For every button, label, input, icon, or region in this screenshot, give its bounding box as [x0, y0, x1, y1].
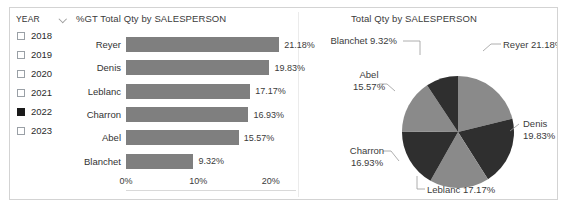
- pie-slice-label-line: Blanchet 9.32%: [330, 35, 397, 46]
- bar-track: 21.18%: [126, 33, 315, 56]
- bar-value-label: 16.93%: [253, 110, 284, 120]
- bar-value-label: 15.57%: [244, 133, 275, 143]
- bar-track: 16.93%: [126, 103, 298, 126]
- pie-slice-label: Blanchet 9.32%: [330, 35, 397, 46]
- pie-label-leader-line: [403, 41, 420, 55]
- bar-fill[interactable]: [126, 60, 269, 75]
- checkbox-checked-icon[interactable]: [17, 108, 25, 116]
- slicer-item-label: 2020: [31, 68, 52, 79]
- slicer-item-2020[interactable]: 2020: [14, 64, 70, 83]
- pie-slice-label-line: Denis: [523, 118, 548, 129]
- pie-chart-svg: Reyer 21.18%Denis19.83%Leblanc 17.17%Cha…: [307, 11, 557, 199]
- pie-slice-label: Charron16.93%: [350, 145, 384, 168]
- bar-category-label: Abel: [74, 132, 126, 143]
- bar-value-label: 17.17%: [255, 86, 286, 96]
- bar-chart-x-axis: 0%10%20%: [126, 174, 296, 198]
- x-axis-tick-label: 10%: [189, 176, 207, 186]
- slicer-item-2021[interactable]: 2021: [14, 83, 70, 102]
- checkbox-icon[interactable]: [17, 32, 25, 40]
- pie-slice-label-line: 15.57%: [353, 81, 386, 92]
- bar-row[interactable]: Abel15.57%: [74, 126, 298, 149]
- bar-chart-plot-area: Reyer21.18%Denis19.83%Leblanc17.17%Charr…: [74, 33, 298, 173]
- slicer-item-label: 2019: [31, 49, 52, 60]
- bar-row[interactable]: Leblanc17.17%: [74, 80, 298, 103]
- pie-slice-label-line: Reyer 21.18%: [503, 39, 557, 50]
- bar-track: 17.17%: [126, 80, 298, 103]
- checkbox-icon[interactable]: [17, 127, 25, 135]
- bar-category-label: Denis: [74, 62, 126, 73]
- bar-category-label: Leblanc: [74, 86, 126, 97]
- slicer-item-2023[interactable]: 2023: [14, 121, 70, 140]
- pie-slice-label-line: 19.83%: [523, 130, 556, 141]
- bar-fill[interactable]: [126, 84, 250, 99]
- bar-chart-visual[interactable]: %GT Total Qty by SALESPERSON Reyer21.18%…: [74, 11, 298, 199]
- bar-fill[interactable]: [126, 154, 193, 169]
- slicer-item-list: 201820192020202120222023: [14, 26, 70, 140]
- slicer-item-2018[interactable]: 2018: [14, 26, 70, 45]
- checkbox-icon[interactable]: [17, 89, 25, 97]
- year-slicer[interactable]: YEAR 201820192020202120222023: [14, 11, 70, 141]
- bar-fill[interactable]: [126, 107, 248, 122]
- bar-track: 9.32%: [126, 150, 298, 173]
- bar-row[interactable]: Reyer21.18%: [74, 33, 298, 56]
- x-axis-tick-label: 0%: [119, 176, 132, 186]
- pie-chart-visual[interactable]: Total Qty by SALESPERSON Reyer 21.18%Den…: [307, 11, 557, 199]
- bar-category-label: Reyer: [74, 39, 126, 50]
- bar-row[interactable]: Blanchet9.32%: [74, 150, 298, 173]
- slicer-item-label: 2021: [31, 87, 52, 98]
- bar-category-label: Blanchet: [74, 156, 126, 167]
- slicer-item-label: 2022: [31, 106, 52, 117]
- pie-slice-label-line: Leblanc 17.17%: [427, 184, 496, 195]
- pie-label-leader-line: [483, 44, 501, 51]
- checkbox-icon[interactable]: [17, 70, 25, 78]
- pie-slice-label: Abel15.57%: [353, 69, 386, 92]
- slicer-item-label: 2018: [31, 30, 52, 41]
- slicer-header[interactable]: YEAR: [14, 11, 70, 26]
- pie-slice-label: Denis19.83%: [523, 118, 556, 141]
- slicer-item-2019[interactable]: 2019: [14, 45, 70, 64]
- bar-chart-title: %GT Total Qty by SALESPERSON: [76, 13, 226, 24]
- pie-slice-label: Leblanc 17.17%: [427, 184, 496, 195]
- report-panel: YEAR 201820192020202120222023 %GT Total …: [9, 7, 558, 200]
- bar-track: 19.83%: [126, 56, 305, 79]
- bar-track: 15.57%: [126, 126, 298, 149]
- x-axis-tick-label: 20%: [262, 176, 280, 186]
- slicer-item-label: 2023: [31, 125, 52, 136]
- pie-slice-label: Reyer 21.18%: [503, 39, 557, 50]
- pie-label-leader-line: [383, 151, 399, 161]
- slicer-item-2022[interactable]: 2022: [14, 102, 70, 121]
- bar-fill[interactable]: [126, 37, 279, 52]
- pie-slice-label-line: Charron: [350, 145, 384, 156]
- bar-value-label: 19.83%: [274, 63, 305, 73]
- bar-row[interactable]: Charron16.93%: [74, 103, 298, 126]
- chevron-down-icon[interactable]: [60, 15, 67, 22]
- bar-fill[interactable]: [126, 130, 239, 145]
- x-axis-line: [126, 190, 296, 191]
- bar-category-label: Charron: [74, 109, 126, 120]
- bar-row[interactable]: Denis19.83%: [74, 56, 298, 79]
- bar-value-label: 9.32%: [198, 156, 224, 166]
- pie-label-leader-line: [417, 176, 425, 189]
- pie-slice-label-line: Abel: [359, 69, 378, 80]
- slicer-title: YEAR: [16, 14, 40, 24]
- checkbox-icon[interactable]: [17, 51, 25, 59]
- pie-slice-label-line: 16.93%: [351, 157, 384, 168]
